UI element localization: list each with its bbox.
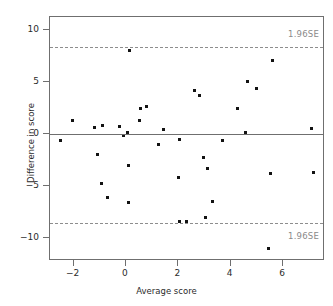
y-axis-tick-label: 10 <box>28 24 39 34</box>
upper-loa-label: 1.96SE <box>288 29 319 39</box>
x-axis-tick <box>177 260 178 266</box>
data-point <box>312 171 315 174</box>
data-point <box>101 124 104 127</box>
x-axis-label: Average score <box>0 286 333 296</box>
data-point <box>118 125 121 128</box>
y-axis-tick-label: 0 <box>33 128 39 138</box>
data-point <box>193 89 196 92</box>
data-point <box>269 172 272 175</box>
data-point <box>178 138 181 141</box>
x-axis-tick-label: 2 <box>174 268 180 278</box>
data-point <box>139 107 142 110</box>
x-axis-tick-label: 4 <box>227 268 233 278</box>
data-point <box>157 143 160 146</box>
x-axis-tick-label: 0 <box>122 268 128 278</box>
plot-area: 1.96SE1.96SE <box>49 16 324 260</box>
data-point <box>236 107 239 110</box>
lower-limit-of-agreement <box>50 223 323 224</box>
data-point <box>255 87 258 90</box>
x-axis-tick-label: −2 <box>66 268 79 278</box>
data-point <box>271 59 274 62</box>
data-point <box>221 139 224 142</box>
data-point <box>211 200 214 203</box>
bland-altman-chart: Difference in score −10−50510 1.96SE1.96… <box>0 0 333 306</box>
data-point <box>310 127 313 130</box>
data-point <box>246 80 249 83</box>
lower-loa-label: 1.96SE <box>288 231 319 241</box>
data-point <box>177 176 180 179</box>
data-point <box>100 182 103 185</box>
x-axis-tick <box>73 260 74 266</box>
data-point <box>96 153 99 156</box>
data-point <box>162 128 165 131</box>
data-point <box>198 94 201 97</box>
data-point <box>93 126 96 129</box>
data-point <box>204 216 207 219</box>
x-axis-tick <box>282 260 283 266</box>
y-axis-tick-label: 5 <box>33 76 39 86</box>
data-point <box>145 105 148 108</box>
data-point <box>267 247 270 250</box>
data-point <box>138 119 141 122</box>
data-point <box>59 139 62 142</box>
y-axis-tick-label: −5 <box>26 180 39 190</box>
data-point <box>127 201 130 204</box>
data-point <box>206 167 209 170</box>
data-point <box>244 131 247 134</box>
data-point <box>127 164 130 167</box>
data-point <box>106 196 109 199</box>
mean-difference <box>50 134 323 135</box>
x-axis-tick <box>230 260 231 266</box>
data-point <box>128 49 131 52</box>
upper-limit-of-agreement <box>50 47 323 48</box>
x-axis-tick-label: 6 <box>279 268 285 278</box>
data-point <box>202 156 205 159</box>
y-axis-tick-label: −10 <box>20 232 39 242</box>
data-point <box>71 119 74 122</box>
x-axis-tick <box>125 260 126 266</box>
